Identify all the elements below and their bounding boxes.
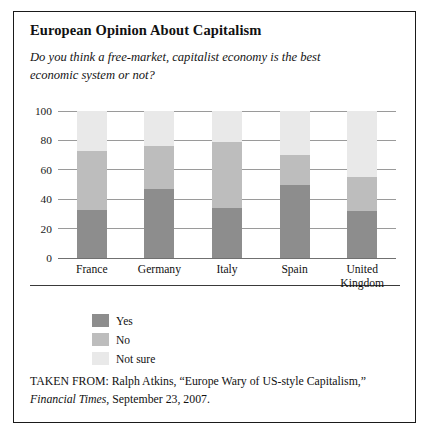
figure-frame: European Opinion About Capitalism Do you… [13,11,416,423]
bar-segment-no [280,155,310,184]
legend-label: Not sure [116,353,155,365]
bar-segment-not-sure [347,111,377,177]
bar-segment-yes [347,211,377,258]
bar-segment-yes [77,210,107,259]
bar-segment-no [212,142,242,208]
chart-legend: YesNoNot sure [92,311,155,368]
legend-label: No [116,334,130,346]
x-tick-line: Kingdom [319,277,405,291]
bar-segment-not-sure [280,111,310,155]
y-tick-label: 20 [18,223,52,235]
bar-segment-no [347,177,377,211]
bar-segment-no [77,151,107,210]
bar-segment-not-sure [77,111,107,151]
y-tick-label: 80 [18,134,52,146]
bar-segment-no [144,146,174,189]
legend-item-not-sure: Not sure [92,349,155,368]
source-prefix: TAKEN FROM: Ralph Atkins, “Europe Wary o… [30,374,366,388]
source-citation: TAKEN FROM: Ralph Atkins, “Europe Wary o… [30,373,390,408]
source-publication: Financial Times [30,392,106,406]
source-suffix: , September 23, 2007. [106,392,210,406]
legend-swatch-icon [92,333,109,346]
bar-segment-not-sure [212,111,242,142]
figure-subtitle: Do you think a free-market, capitalist e… [30,48,360,85]
chart-plot-area [58,111,396,258]
legend-swatch-icon [92,352,109,365]
bar-segment-yes [280,185,310,259]
y-axis: 020406080100 [14,111,52,258]
bar-segment-yes [144,189,174,258]
bar-segment-not-sure [144,111,174,146]
legend-swatch-icon [92,314,109,327]
legend-item-no: No [92,330,155,349]
y-tick-label: 0 [18,252,52,264]
y-tick-label: 60 [18,164,52,176]
x-tick-line: United [319,263,405,277]
y-tick-label: 100 [18,105,52,117]
bar-segment-yes [212,208,242,258]
page-title: European Opinion About Capitalism [30,22,261,39]
y-tick-label: 40 [18,193,52,205]
x-tick-label: UnitedKingdom [319,263,405,291]
legend-label: Yes [116,315,133,327]
legend-item-yes: Yes [92,311,155,330]
